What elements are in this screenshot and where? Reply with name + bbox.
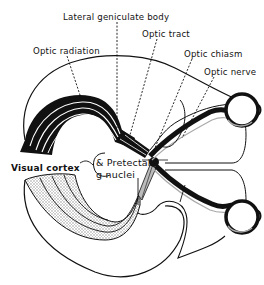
label-lateral-geniculate-body: Lateral geniculate body bbox=[63, 13, 169, 22]
label-optic-chiasm: Optic chiasm bbox=[184, 50, 243, 59]
leader-optic-chiasm bbox=[152, 59, 192, 155]
upper-eye bbox=[226, 94, 261, 126]
label-optic-nerve: Optic nerve bbox=[204, 68, 256, 77]
lower-optic-radiation bbox=[25, 174, 140, 240]
label-pretectal-line2: g nuclei bbox=[96, 170, 135, 180]
upper-tract-loop bbox=[158, 100, 185, 147]
visual-pathway-diagram: Lateral geniculate body Optic tract Opti… bbox=[0, 0, 264, 285]
label-visual-cortex: Visual cortex bbox=[11, 164, 80, 173]
leader-lines bbox=[67, 22, 214, 155]
label-optic-tract: Optic tract bbox=[142, 30, 190, 39]
pretectal-connection-line bbox=[80, 161, 93, 165]
label-optic-radiation: Optic radiation bbox=[33, 47, 100, 56]
diagram-canvas bbox=[0, 0, 264, 285]
leader-optic-tract bbox=[128, 39, 157, 142]
lower-eye bbox=[226, 201, 261, 233]
upper-optic-radiation bbox=[20, 95, 135, 155]
label-pretectal-line1: & Pretectal bbox=[96, 158, 151, 168]
upper-optic-nerve bbox=[150, 104, 234, 160]
